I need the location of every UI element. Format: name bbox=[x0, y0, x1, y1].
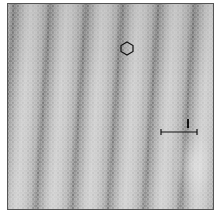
bright-region bbox=[173, 129, 213, 199]
stm-image bbox=[7, 3, 214, 210]
scale-bar bbox=[160, 127, 198, 137]
scale-bar-label bbox=[187, 119, 189, 128]
hexagon-outline-icon bbox=[120, 41, 134, 56]
